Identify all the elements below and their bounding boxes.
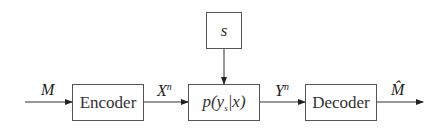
- estimate-label: M̂: [391, 81, 404, 99]
- channel-block: p(ys|x): [188, 84, 260, 121]
- x-signal-label: Xn: [157, 81, 172, 100]
- state-block: s: [206, 12, 242, 49]
- decoder-block: Decoder: [305, 84, 377, 121]
- state-label: s: [221, 21, 228, 41]
- decoder-label: Decoder: [312, 93, 370, 113]
- channel-label: p(ys|x): [202, 92, 245, 113]
- encoder-block: Encoder: [72, 84, 144, 121]
- y-signal-label: Yn: [275, 81, 289, 100]
- encoder-label: Encoder: [80, 93, 137, 113]
- message-label: M: [41, 81, 54, 99]
